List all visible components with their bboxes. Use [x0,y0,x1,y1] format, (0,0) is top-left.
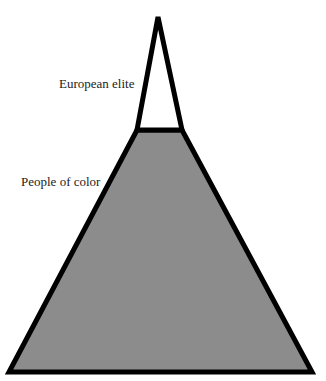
pyramid-base-layer [9,130,312,372]
label-european-elite: European elite [59,77,134,90]
pyramid-diagram: European elite People of color [0,0,326,381]
label-people-of-color: People of color [21,175,100,188]
pyramid-top-layer [137,17,182,130]
pyramid-graphic [0,0,326,381]
